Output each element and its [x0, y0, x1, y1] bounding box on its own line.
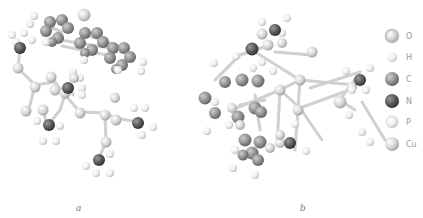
oxygen-atom-icon	[384, 28, 400, 44]
nitrogen-atom-icon	[384, 93, 400, 109]
legend-label-phosphorus: P	[406, 118, 411, 127]
legend-label-copper: Cu	[406, 140, 417, 149]
legend-item-oxygen: O	[384, 26, 400, 46]
hydrogen-atom-icon	[384, 49, 400, 65]
molecule-a	[8, 9, 157, 178]
legend-item-carbon: C	[384, 69, 400, 89]
legend-item-hydrogen: H	[384, 47, 400, 67]
legend-label-nitrogen: N	[406, 97, 412, 106]
carbon-atom-icon	[384, 71, 400, 87]
legend-item-copper: Cu	[384, 134, 400, 154]
legend-item-nitrogen: N	[384, 91, 400, 111]
legend-label-oxygen: O	[406, 32, 412, 41]
legend-label-carbon: C	[406, 75, 412, 84]
molecular-structure-figure	[0, 0, 423, 218]
copper-atom-icon	[384, 136, 400, 152]
legend-item-phosphorus: P	[384, 112, 400, 132]
molecule-b	[199, 14, 386, 179]
legend-label-hydrogen: H	[406, 53, 412, 62]
copper-atoms-b	[334, 96, 347, 109]
panel-label-a: a	[76, 203, 81, 213]
panel-label-b: b	[300, 203, 306, 213]
phosphorus-atom-icon	[384, 114, 400, 130]
